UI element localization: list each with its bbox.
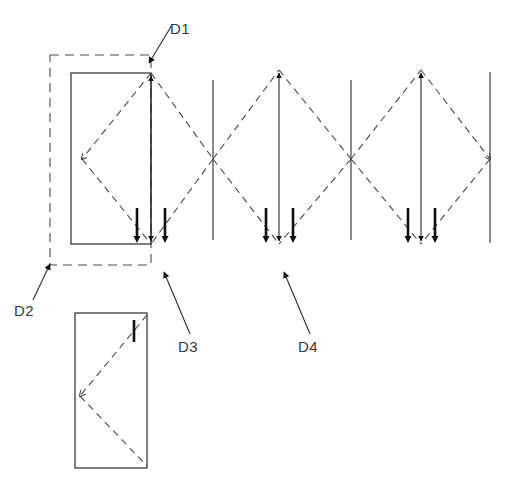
swing-diamond-2 <box>213 70 279 244</box>
callout-label-d1: D1 <box>170 20 190 37</box>
diamond-5-upper-right <box>421 70 490 159</box>
leader-line-d2 <box>33 264 50 300</box>
panel-upper-swing-lines <box>82 73 151 244</box>
swing-tick-1-left-head <box>134 236 141 243</box>
swing-tick-3-left-head <box>405 236 412 243</box>
callout-label-d4: D4 <box>298 338 318 355</box>
callout-label-d3: D3 <box>178 338 198 355</box>
diamond-2-upper-left <box>213 70 279 159</box>
diamond-4-lower-left <box>351 159 421 244</box>
swing-tick-1-right-head <box>162 236 169 243</box>
arrow-group-1 <box>134 76 169 243</box>
leader-line-d1 <box>149 25 172 63</box>
diamond-2-lower-left <box>213 159 279 244</box>
diamond-3-upper-right <box>279 70 351 159</box>
swing-tick-2-left-head <box>263 236 270 243</box>
callout-label-d2: D2 <box>14 302 34 319</box>
swing-diamond-3 <box>279 70 351 244</box>
diagram-root: D1 D2 D3 D4 <box>0 0 507 495</box>
arrow-group-2 <box>263 73 297 243</box>
diamond-1-lower-right <box>151 159 213 244</box>
technical-drawing-canvas: D1 D2 D3 D4 <box>0 0 507 495</box>
panel-lower-swing-lines <box>80 315 147 466</box>
diamond-5-lower-right <box>421 159 490 244</box>
panel-lower-chevron-bottom <box>80 396 147 466</box>
arrow-group-3 <box>405 73 439 243</box>
panel-upper-chevron-top <box>82 73 151 159</box>
swing-diamond-4 <box>351 70 421 244</box>
diamond-1-upper-right <box>151 73 213 159</box>
panel-lower-outline <box>75 313 147 468</box>
swing-tick-3-right-head <box>432 236 439 243</box>
panel-lower-chevron-top <box>80 315 147 396</box>
swing-diamond-1 <box>151 73 213 244</box>
panel-upper-chevron-bottom <box>82 159 151 244</box>
leader-line-d3 <box>164 272 190 334</box>
swing-diamond-5 <box>421 70 490 244</box>
swing-tick-2-right-head <box>290 236 297 243</box>
leader-line-d4 <box>284 272 310 334</box>
diamond-3-lower-right <box>279 159 351 244</box>
diamond-4-upper-left <box>351 70 421 159</box>
